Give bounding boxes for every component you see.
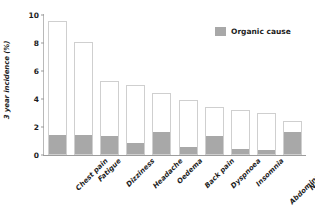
legend-swatch-organic-cause xyxy=(215,27,226,36)
bar-group xyxy=(283,15,302,155)
bar-segment-organic-cause xyxy=(101,136,118,154)
y-axis-title-text: 3 year incidence (%) xyxy=(3,41,11,120)
bar-total-incidence xyxy=(283,121,302,155)
bar-total-incidence xyxy=(152,93,171,155)
y-axis-tick-label: 2 xyxy=(34,123,39,132)
bar-segment-organic-cause xyxy=(153,132,170,154)
bar-segment-organic-cause xyxy=(284,132,301,154)
bar-total-incidence xyxy=(126,85,145,155)
bar-total-incidence xyxy=(48,21,67,155)
bar-series-group xyxy=(44,15,306,155)
y-axis-tick-label: 8 xyxy=(34,39,39,48)
bar-segment-organic-cause xyxy=(75,135,92,154)
bar-group xyxy=(126,15,145,155)
x-axis-tick-labels: Chest painFatigueDizzinessHeadacheOedema… xyxy=(44,157,306,210)
legend: Organic cause xyxy=(215,27,291,36)
bar-total-incidence xyxy=(205,107,224,155)
bar-chart: 3 year incidence (%) 0246810 Chest painF… xyxy=(0,0,315,210)
bar-total-incidence xyxy=(179,100,198,155)
bar-segment-organic-cause xyxy=(258,150,275,154)
bar-total-incidence xyxy=(231,110,250,155)
bar-segment-organic-cause xyxy=(49,135,66,154)
bar-segment-organic-cause xyxy=(232,149,249,154)
bar-group xyxy=(74,15,93,155)
bar-total-incidence xyxy=(100,81,119,155)
legend-label-organic-cause: Organic cause xyxy=(231,27,291,36)
y-axis-title: 3 year incidence (%) xyxy=(0,0,14,160)
bar-group xyxy=(231,15,250,155)
bar-total-incidence xyxy=(257,113,276,155)
y-axis-tick-label: 0 xyxy=(34,151,39,160)
bar-group xyxy=(152,15,171,155)
bar-group xyxy=(257,15,276,155)
bar-group xyxy=(205,15,224,155)
bar-segment-organic-cause xyxy=(206,136,223,154)
bar-group xyxy=(100,15,119,155)
y-axis-tick-label: 4 xyxy=(34,95,39,104)
y-axis-tick-label: 6 xyxy=(34,67,39,76)
bar-total-incidence xyxy=(74,42,93,155)
plot-area: 0246810 xyxy=(44,15,306,155)
bar-group xyxy=(179,15,198,155)
bar-segment-organic-cause xyxy=(127,143,144,154)
x-axis-line xyxy=(43,155,306,156)
bar-segment-organic-cause xyxy=(180,147,197,154)
bar-group xyxy=(48,15,67,155)
y-axis-tick-label: 10 xyxy=(29,11,39,20)
